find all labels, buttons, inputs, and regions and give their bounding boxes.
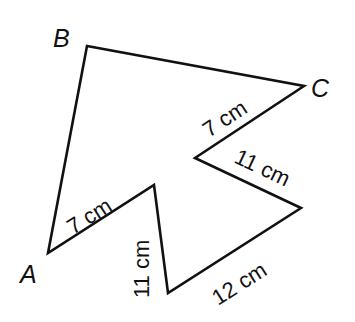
vertex-label-a: A bbox=[18, 260, 37, 288]
edge-label-cd: 7 cm bbox=[198, 95, 252, 142]
edge-label-ef: 12 cm bbox=[207, 257, 271, 310]
edge-label-de: 11 cm bbox=[231, 144, 294, 192]
polygon-diagram: B C A 7 cm 11 cm 12 cm 11 cm 7 cm bbox=[0, 0, 355, 322]
vertex-label-b: B bbox=[53, 24, 70, 52]
vertex-label-c: C bbox=[311, 74, 330, 102]
edge-label-fg: 11 cm bbox=[129, 240, 154, 298]
edge-label-ga: 7 cm bbox=[62, 193, 116, 239]
